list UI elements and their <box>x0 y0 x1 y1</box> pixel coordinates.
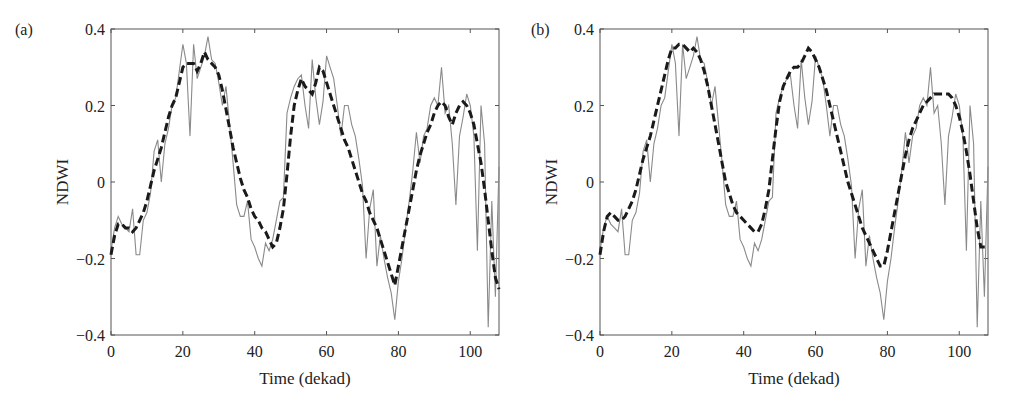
panel-b: (b) −0.4−0.200.20.4 020406080100 NDWI Ti… <box>531 21 988 388</box>
y-axis-title-a: NDWI <box>53 159 72 206</box>
panel-label-b: (b) <box>531 21 550 39</box>
x-axis-b: 020406080100 <box>596 29 971 360</box>
y-tick-label: 0 <box>586 174 594 191</box>
x-axis-title-b: Time (dekad) <box>748 369 839 388</box>
x-tick-label: 0 <box>107 343 115 360</box>
x-tick-label: 20 <box>664 343 680 360</box>
smoothed-series-line-a <box>111 52 499 289</box>
x-axis-a: 020406080100 <box>107 29 482 360</box>
x-tick-label: 40 <box>247 343 263 360</box>
y-tick-label: 0 <box>97 174 105 191</box>
x-tick-label: 40 <box>736 343 752 360</box>
y-tick-label: 0.4 <box>574 21 594 38</box>
y-tick-label: −0.4 <box>565 327 594 344</box>
raw-series-line-a <box>111 37 499 328</box>
y-axis-title-b: NDWI <box>542 159 561 206</box>
y-tick-label: 0.2 <box>574 98 594 115</box>
y-axis-b: −0.4−0.200.20.4 <box>565 21 988 344</box>
x-tick-label: 80 <box>879 343 895 360</box>
panel-a: (a) −0.4−0.200.20.4 020406080100 NDWI Ti… <box>15 21 499 388</box>
x-tick-label: 60 <box>808 343 824 360</box>
x-tick-label: 80 <box>390 343 406 360</box>
y-tick-label: 0.4 <box>85 21 105 38</box>
x-tick-label: 100 <box>947 343 971 360</box>
y-tick-label: −0.2 <box>76 251 105 268</box>
raw-series-line-b <box>600 37 988 328</box>
y-tick-label: −0.4 <box>76 327 105 344</box>
panel-label-a: (a) <box>15 21 33 39</box>
y-tick-label: 0.2 <box>85 98 105 115</box>
x-tick-label: 20 <box>175 343 191 360</box>
x-axis-title-a: Time (dekad) <box>259 369 350 388</box>
figure: (a) −0.4−0.200.20.4 020406080100 NDWI Ti… <box>0 0 1025 407</box>
y-tick-label: −0.2 <box>565 251 594 268</box>
x-tick-label: 0 <box>596 343 604 360</box>
x-tick-label: 100 <box>458 343 482 360</box>
x-tick-label: 60 <box>319 343 335 360</box>
